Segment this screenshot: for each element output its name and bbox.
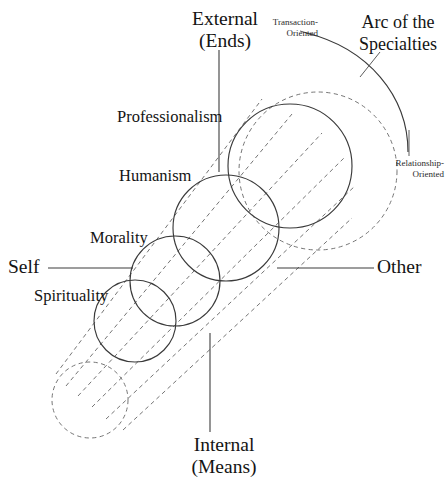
annotation-relationship-line1: Relationship- (378, 158, 444, 169)
ring-label-professionalism: Professionalism (117, 108, 222, 126)
ring-label-morality: Morality (90, 229, 148, 247)
band-edge-upper (56, 99, 262, 374)
axis-label-other: Other (377, 256, 421, 278)
axis-label-internal-line1: Internal (168, 434, 280, 456)
annotation-transaction-line2: Oriented (246, 28, 318, 39)
annotation-arc-of-specialties: Arc of the Specialties (350, 12, 446, 55)
annotation-arc-line2: Specialties (350, 34, 446, 56)
axis-label-internal-line2: (Means) (168, 456, 280, 478)
annotation-transaction-oriented: Transaction- Oriented (246, 17, 318, 39)
annotation-relationship-line2: Oriented (378, 169, 444, 180)
diagram-root: External (Ends) Internal (Means) Self Ot… (0, 0, 446, 484)
band-line-1 (66, 114, 292, 386)
diagram-canvas (0, 0, 446, 484)
annotation-arc-line1: Arc of the (350, 12, 446, 34)
axis-label-self: Self (8, 256, 39, 278)
annotation-relationship-oriented: Relationship- Oriented (378, 158, 444, 180)
ghost-circle-dashed (52, 362, 128, 438)
ring-label-spirituality: Spirituality (34, 287, 108, 305)
axis-label-internal: Internal (Means) (168, 434, 280, 478)
annotation-transaction-line1: Transaction- (246, 17, 318, 28)
ring-label-humanism: Humanism (119, 167, 191, 185)
band-group (52, 92, 397, 438)
band-end-cap-dashed-circle (239, 92, 397, 250)
circle-professionalism (228, 104, 352, 228)
